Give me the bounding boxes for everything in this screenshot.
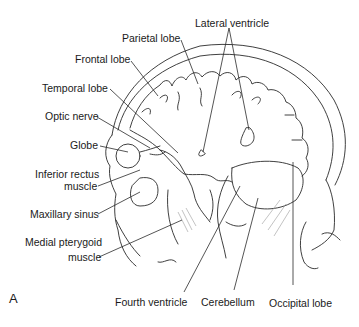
leader-frontal-lobe (131, 61, 158, 96)
temporal-lobe-contour (130, 130, 232, 182)
label-inferior-rectus-line1: Inferior rectus (35, 168, 99, 180)
brain-outline (130, 72, 308, 176)
leader-lateral-ventricle-1 (203, 28, 229, 152)
label-maxillary-sinus: Maxillary sinus (30, 208, 99, 220)
label-optic-nerve: Optic nerve (45, 110, 99, 122)
leader-cerebellum (234, 198, 258, 290)
leader-globe (100, 146, 128, 152)
lateral-ventricle-shape (199, 150, 205, 156)
maxillary-sinus-shape (130, 178, 158, 207)
neck-contour (300, 222, 318, 269)
brainstem (217, 176, 228, 258)
label-fourth-ventricle: Fourth ventricle (115, 296, 187, 308)
skull-base (160, 150, 210, 222)
globe-shape (116, 144, 140, 168)
label-temporal-lobe: Temporal lobe (42, 82, 108, 94)
leader-medial-pterygoid (99, 220, 182, 257)
head-sagittal-drawing (0, 0, 359, 327)
brainstem (210, 190, 213, 220)
label-globe: Globe (70, 139, 98, 151)
label-medial-pterygoid-line2: muscle (68, 251, 101, 263)
skull-outer-contour (112, 44, 345, 185)
anatomy-figure: Parietal lobe Lateral ventricle Frontal … (0, 0, 359, 327)
label-parietal-lobe: Parietal lobe (122, 32, 180, 44)
gyrus (200, 88, 202, 106)
gyrus (142, 108, 151, 114)
gyrus (160, 95, 168, 102)
muscle-hatching (178, 208, 196, 232)
cerebellum-contour (232, 161, 303, 209)
label-frontal-lobe: Frontal lobe (75, 53, 130, 65)
lateral-ventricle-shape (241, 128, 254, 146)
gyrus (232, 91, 241, 98)
gyrus (252, 97, 260, 104)
label-cerebellum: Cerebellum (201, 296, 255, 308)
leader-optic-nerve (97, 117, 150, 148)
leader-inferior-rectus (98, 170, 140, 186)
label-occipital-lobe: Occipital lobe (269, 297, 332, 309)
neck-posterior-contour (312, 180, 340, 250)
brainstem-line (226, 222, 246, 226)
gyrus (178, 92, 180, 110)
panel-label: A (9, 291, 18, 306)
label-lateral-ventricle: Lateral ventricle (195, 17, 269, 29)
label-inferior-rectus-line2: muscle (64, 180, 97, 192)
label-medial-pterygoid-line1: Medial pterygoid (25, 236, 102, 248)
leader-lateral-ventricle-2 (229, 28, 249, 130)
leader-fourth-ventricle (184, 186, 240, 292)
